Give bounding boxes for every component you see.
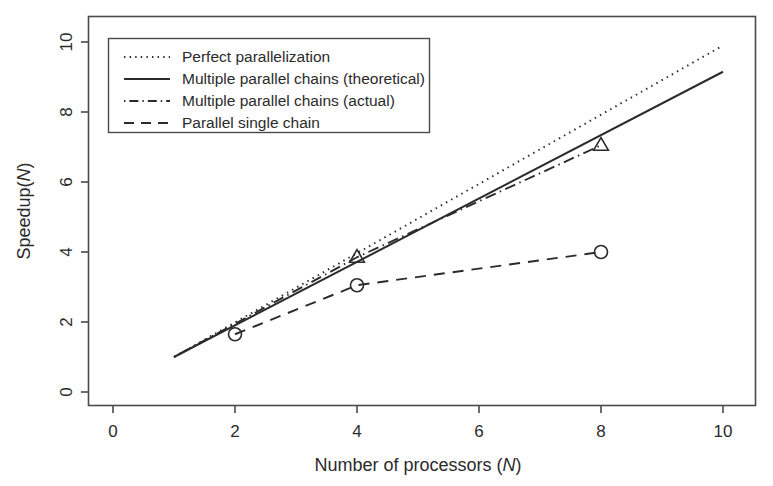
legend-label: Perfect parallelization <box>182 48 330 65</box>
x-tick-label: 4 <box>352 422 361 441</box>
y-tick-label: 8 <box>57 107 76 116</box>
x-axis-title-text: Number of processors <box>314 455 491 475</box>
x-tick-label: 8 <box>596 422 605 441</box>
x-axis-title: Number of processors (N) <box>314 455 521 475</box>
data-point-circle <box>595 246 608 259</box>
x-tick-label: 10 <box>714 422 733 441</box>
legend-label: Parallel single chain <box>182 114 320 131</box>
speedup-chart-figure: 0 2 4 6 8 10 Speedup(N) 0 2 4 6 8 10 <box>0 0 773 486</box>
chart-canvas: 0 2 4 6 8 10 Speedup(N) 0 2 4 6 8 10 <box>0 0 773 486</box>
legend-label: Multiple parallel chains (actual) <box>182 92 395 109</box>
x-tick-group <box>113 406 723 414</box>
y-tick-label: 2 <box>57 317 76 326</box>
y-tick-label: 10 <box>57 33 76 52</box>
x-tick-label: 0 <box>108 422 117 441</box>
y-tick-label: 0 <box>57 387 76 396</box>
x-tick-label: 2 <box>230 422 239 441</box>
data-point-triangle <box>594 138 609 151</box>
y-tick-label: 6 <box>57 177 76 186</box>
x-tick-label: 6 <box>474 422 483 441</box>
series-parallel-single-chain <box>235 252 601 334</box>
y-axis-title-text: Speedup <box>14 187 34 259</box>
legend-label: Multiple parallel chains (theoretical) <box>182 70 425 87</box>
y-tick-label: 4 <box>57 247 76 256</box>
y-axis: 0 2 4 6 8 10 Speedup(N) <box>14 33 89 397</box>
x-axis: 0 2 4 6 8 10 Number of processors (N) <box>108 406 732 476</box>
series-path <box>235 252 601 334</box>
legend: Perfect parallelization Multiple paralle… <box>109 39 430 133</box>
y-axis-title: Speedup(N) <box>14 162 34 259</box>
y-tick-group <box>81 42 89 392</box>
x-axis-title-symbol: N <box>503 455 517 475</box>
series-multiple-parallel-chains-actual <box>174 145 601 357</box>
y-axis-title-symbol: N <box>14 167 34 181</box>
series-path <box>174 145 601 357</box>
